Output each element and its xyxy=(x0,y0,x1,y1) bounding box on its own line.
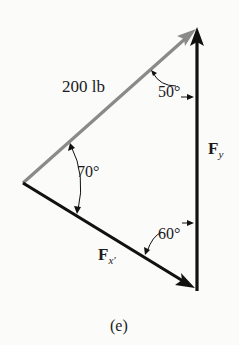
force-triangle-diagram xyxy=(0,0,239,345)
resultant-force-label: 200 lb xyxy=(62,78,105,95)
angle-label-50: 50° xyxy=(158,84,180,100)
angle-label-70: 70° xyxy=(77,164,99,180)
force-fy-vector xyxy=(190,27,204,291)
angle-label-60: 60° xyxy=(158,226,180,242)
force-200lb-vector xyxy=(23,29,196,183)
force-fx-subscript: x′ xyxy=(108,254,115,266)
force-fy-symbol: F xyxy=(208,139,218,158)
figure-caption: (e) xyxy=(110,318,128,334)
force-fy-subscript: y xyxy=(218,148,223,160)
force-fx-symbol: F xyxy=(98,245,108,264)
force-fx-prime-label: Fx′ xyxy=(98,246,116,263)
force-fy-label: Fy xyxy=(208,140,223,157)
